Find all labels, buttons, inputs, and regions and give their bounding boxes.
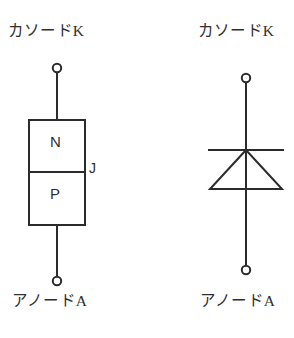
cathode-label-left: カソードK	[8, 22, 84, 39]
cathode-terminal-circle-right	[242, 74, 250, 82]
anode-terminal-circle-right	[242, 266, 250, 274]
diode-symbol-diagram	[208, 74, 284, 274]
anode-label-left: アノードA	[12, 292, 87, 309]
anode-terminal-circle-left	[53, 277, 61, 285]
n-region-label: N	[50, 134, 61, 150]
figure-canvas	[0, 0, 294, 338]
cathode-terminal-circle-left	[53, 64, 61, 72]
cathode-label-right: カソードK	[198, 22, 274, 39]
pn-structure-diagram	[29, 64, 85, 285]
diode-figure: カソードK カソードK アノードA アノードA N P J	[0, 0, 294, 338]
junction-label: J	[89, 161, 96, 176]
anode-label-right: アノードA	[200, 292, 275, 309]
p-region-label: P	[50, 186, 60, 202]
